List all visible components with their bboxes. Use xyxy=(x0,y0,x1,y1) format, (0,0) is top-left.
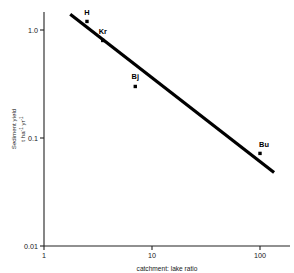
y-axis-units: t ha-1 yr-1 xyxy=(19,116,27,142)
y-axis-title-group: Sediment yield t ha-1 yr-1 xyxy=(10,108,26,149)
y-tick-label: 0.01 xyxy=(24,242,38,251)
x-tick-label: 10 xyxy=(148,251,156,260)
data-points-group: HKrBjBu xyxy=(84,8,269,155)
y-axis-ticks: 1.00.10.01 xyxy=(24,26,44,251)
sediment-yield-chart: 1.00.10.01 110100 HKrBjBu catchment: lak… xyxy=(0,0,294,273)
x-axis-title: catchment: lake ratio xyxy=(137,265,198,272)
x-axis-ticks: 110100 xyxy=(42,246,266,260)
axes xyxy=(44,12,290,246)
regression-line-group xyxy=(70,14,274,172)
regression-line xyxy=(70,14,274,172)
data-point-label: Bj xyxy=(132,72,139,81)
x-tick-label: 1 xyxy=(42,251,46,260)
y-tick-label: 1.0 xyxy=(28,26,38,35)
data-point-label: Bu xyxy=(259,140,269,149)
y-tick-label: 0.1 xyxy=(28,134,38,143)
data-point-label: Kr xyxy=(99,27,107,36)
x-tick-label: 100 xyxy=(254,251,266,260)
data-point-marker xyxy=(134,85,137,88)
data-point-marker xyxy=(258,152,261,155)
data-point-marker xyxy=(101,39,104,42)
data-point-marker xyxy=(85,20,88,23)
axis-titles: catchment: lake ratio Sediment yield t h… xyxy=(10,108,198,272)
data-point-label: H xyxy=(84,8,89,17)
chart-canvas: 1.00.10.01 110100 HKrBjBu catchment: lak… xyxy=(0,0,294,273)
y-axis-title: Sediment yield xyxy=(10,108,17,149)
